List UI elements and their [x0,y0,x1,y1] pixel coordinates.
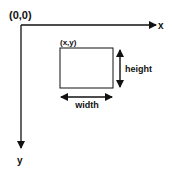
origin-label: (0,0) [9,9,32,21]
rect-corner-label: (x,y) [60,38,77,47]
coordinate-diagram: (0,0) x y (x,y) height width [0,0,174,173]
x-axis-label: x [158,20,164,31]
width-label: width [74,100,99,110]
y-axis-label: y [17,155,23,166]
rectangle [60,48,113,88]
height-label: height [125,64,152,74]
